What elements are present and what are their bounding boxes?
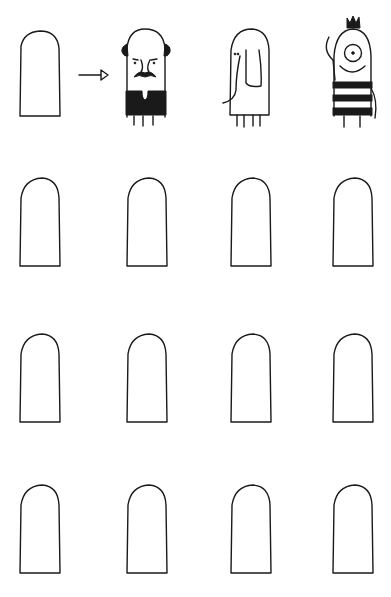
mustache	[134, 72, 156, 77]
blank-finger-outline	[20, 334, 60, 422]
blank-finger-outline	[127, 178, 167, 266]
blank-finger-outline	[333, 334, 373, 422]
arrow-right-icon	[79, 70, 108, 80]
black-shirt	[126, 91, 166, 115]
crown-hair	[347, 16, 360, 28]
blank-finger-outline	[231, 485, 271, 573]
stripe-2	[333, 95, 372, 101]
blank-finger-outline	[231, 334, 271, 422]
right-hair-tuft	[164, 44, 170, 56]
blank-finger-outline	[20, 31, 60, 116]
left-hair-tuft	[122, 44, 128, 56]
blank-finger-outline	[333, 178, 373, 266]
blank-finger-outline	[333, 485, 373, 573]
blank-grid	[20, 178, 373, 573]
drawing-canvas	[0, 0, 391, 597]
puppet-bald-man	[122, 29, 170, 126]
puppet-elephant	[223, 29, 269, 127]
puppet-cyclops	[326, 16, 376, 127]
blank-finger-outline	[231, 178, 271, 266]
blank-finger-outline	[127, 485, 167, 573]
blank-finger-outline	[20, 178, 60, 266]
blank-finger-outline	[20, 485, 60, 573]
blank-finger-outline	[127, 334, 167, 422]
stripe-1	[333, 82, 372, 88]
stripe-3	[333, 108, 372, 115]
